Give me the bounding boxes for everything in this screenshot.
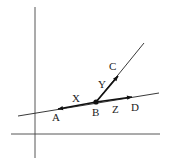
label-d: D bbox=[131, 101, 139, 113]
point-b-dot bbox=[93, 99, 98, 104]
geometry-diagram: A B C D X Y Z bbox=[0, 0, 169, 161]
label-c: C bbox=[109, 60, 116, 72]
label-b: B bbox=[92, 106, 99, 118]
vector-b-to-d bbox=[96, 97, 132, 102]
label-a: A bbox=[52, 111, 60, 123]
label-x: X bbox=[72, 92, 80, 104]
label-z: Z bbox=[112, 103, 119, 115]
label-y: Y bbox=[98, 78, 106, 90]
